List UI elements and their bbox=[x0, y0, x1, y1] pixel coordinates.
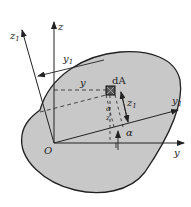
z1-axis-label: z1 bbox=[9, 30, 20, 43]
cross-section-shape bbox=[22, 52, 181, 193]
dA-label: dA bbox=[112, 75, 126, 86]
y-axis-label: y bbox=[173, 147, 180, 158]
small-z-label: z bbox=[105, 114, 110, 122]
y-dim-label: y bbox=[79, 77, 86, 88]
z-axis-label: z bbox=[57, 21, 64, 32]
y1-dim-label: y1 bbox=[62, 53, 73, 66]
origin-label: O bbox=[44, 145, 52, 156]
axes-diagram: z z1 y1 y dA z1 y1 α z α O y bbox=[0, 0, 191, 207]
small-alpha-label: α bbox=[106, 105, 111, 113]
alpha-label: α bbox=[126, 127, 133, 138]
figure: z z1 y1 y dA z1 y1 α z α O y bbox=[0, 0, 191, 207]
